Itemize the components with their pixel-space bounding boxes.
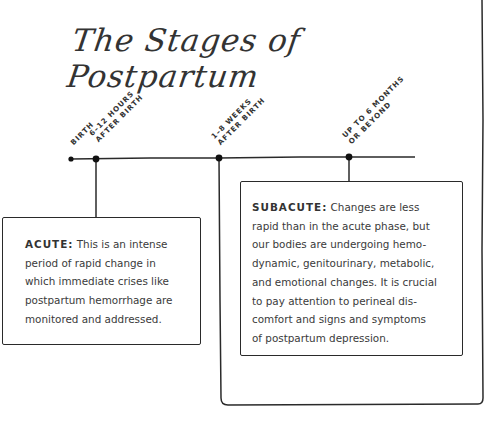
subacute-text: Changes are less (331, 201, 420, 213)
subacute-text: to pay attention to perineal dis- (252, 292, 462, 311)
acute-heading: ACUTE: (25, 238, 73, 250)
subacute-heading: SUBACUTE: (252, 201, 327, 213)
subacute-stage-box: SUBACUTE: Changes are less rapid than in… (240, 181, 463, 356)
acute-text: This is an intense (77, 238, 168, 250)
acute-text: postpartum hemorrhage are (25, 291, 200, 310)
acute-text: monitored and addressed. (25, 310, 200, 329)
page-title: The Stages of Postpartum (65, 22, 498, 94)
subacute-line: SUBACUTE: Changes are less (252, 198, 462, 217)
hours-dot (93, 156, 100, 163)
birth-dot (68, 156, 73, 161)
subacute-text: comfort and signs and symptoms (252, 310, 462, 329)
subacute-text: rapid than in the acute phase, but (252, 217, 462, 236)
timeline-axis (71, 157, 415, 159)
acute-text: which immediate crises like (25, 272, 200, 291)
acute-stage-box: ACUTE: This is an intense period of rapi… (2, 217, 201, 345)
subacute-text: and emotional changes. It is crucial (252, 273, 462, 292)
subacute-text: our bodies are undergoing hemo- (252, 235, 462, 254)
weeks-dot (216, 155, 223, 162)
acute-text: period of rapid change in (25, 254, 200, 273)
acute-line: ACUTE: This is an intense (25, 235, 200, 254)
subacute-text: of postpartum depression. (252, 329, 462, 348)
subacute-text: dynamic, genitourinary, metabolic, (252, 254, 462, 273)
months-dot (346, 154, 353, 161)
